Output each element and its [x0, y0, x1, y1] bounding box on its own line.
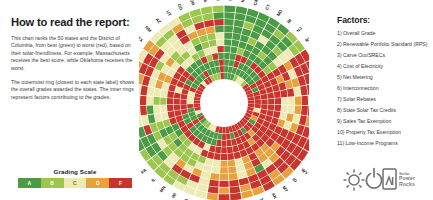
heatmap-cell	[234, 152, 241, 159]
heatmap-cell	[229, 60, 235, 67]
heatmap-cell	[214, 60, 220, 67]
heatmap-cell	[234, 20, 244, 28]
heatmap-cell	[147, 106, 154, 115]
heatmap-cell	[220, 174, 229, 180]
heatmap-cell	[230, 193, 241, 200]
heatmap-cell	[224, 39, 231, 46]
heatmap-cell	[216, 39, 223, 46]
heatmap-cell	[212, 6, 223, 13]
state-label-sd: SD	[308, 157, 309, 164]
heatmap-cell	[180, 99, 186, 104]
heatmap-cell	[222, 140, 227, 146]
factor-item-8: 8) State Solar Tax Credits	[337, 107, 431, 114]
heatmap-cell	[221, 154, 227, 160]
heatmap-cell	[274, 91, 281, 98]
heatmap-cell	[215, 26, 224, 33]
heatmap-cell	[160, 90, 167, 98]
state-label-co: CO	[177, 3, 185, 12]
state-label-nm: NM	[144, 25, 153, 34]
state-label-az: AZ	[154, 17, 162, 25]
heatmap-cell	[147, 96, 153, 105]
heatmap-cell	[308, 95, 309, 105]
heatmap-cell	[281, 97, 287, 104]
heatmap-cell	[209, 40, 217, 47]
heatmap-cell	[201, 41, 209, 49]
heatmap-cell	[231, 40, 239, 47]
heatmap-cell	[214, 19, 224, 26]
heatmap-cell	[281, 105, 288, 112]
heatmap-cell	[210, 46, 217, 53]
heatmap-cell	[207, 152, 214, 159]
heatmap-cell	[160, 105, 167, 112]
heatmap-cells	[139, 6, 309, 200]
grading-scale-legend: Grading Scale ABCDF	[18, 168, 132, 188]
heatmap-cell	[204, 20, 214, 28]
heatmap-cell	[141, 115, 149, 125]
state-label-de: DE	[139, 157, 140, 165]
heatmap-cell	[235, 13, 246, 21]
heatmap-cell	[219, 59, 224, 65]
heatmap-cell	[294, 87, 301, 96]
factor-item-4: 4) Cost of Electricity	[337, 63, 431, 70]
power-icon	[366, 169, 381, 188]
heatmap-cell	[229, 180, 239, 187]
heatmap-cell	[230, 186, 241, 193]
heatmap-cell	[237, 171, 247, 179]
state-label-wa: WA	[202, 0, 208, 3]
heatmap-cell	[216, 32, 224, 39]
heatmap-cell	[167, 98, 173, 104]
heatmap-cell	[208, 186, 219, 193]
heatmap-cell	[254, 104, 260, 108]
heatmap-cell	[162, 82, 170, 90]
howto-paragraph-1: This chart ranks the 50 states and the D…	[11, 35, 137, 72]
state-label-mt: MT	[281, 185, 289, 193]
heatmap-cell	[255, 100, 261, 104]
heatmap-cell	[154, 88, 161, 97]
heatmap-cell	[220, 66, 224, 72]
factor-item-2: 2) Renewable Portfolio Standard (RPS)	[337, 41, 431, 48]
heatmap-cell	[268, 99, 274, 105]
heatmap-cell	[280, 112, 287, 120]
heatmap-cell	[160, 97, 166, 104]
heatmap-cell	[207, 193, 218, 200]
logo-word-rocks: Rocks	[399, 182, 415, 187]
heatmap-cell	[268, 105, 275, 111]
heatmap-cell	[261, 104, 268, 109]
heatmap-cell	[248, 100, 254, 103]
state-label-ne: NE	[259, 198, 266, 200]
heatmap-cell	[248, 104, 254, 108]
state-label-ri: RI	[286, 18, 293, 24]
heatmap-cell	[147, 87, 154, 96]
heatmap-cell	[280, 90, 287, 98]
heatmap-cell	[301, 106, 308, 116]
heatmap-cell	[227, 153, 234, 160]
heatmap-cell	[187, 104, 193, 108]
heatmap-cell	[300, 85, 308, 95]
heatmap-cell	[238, 41, 246, 49]
heatmap-cell	[148, 114, 156, 124]
heatmap-cell	[210, 173, 219, 180]
heatmap-cell	[226, 140, 231, 147]
heatmap-cell	[155, 80, 163, 89]
state-label-md: MD	[276, 9, 284, 17]
heatmap-cell	[224, 46, 230, 53]
heatmap-cell	[168, 111, 175, 118]
heatmap-cell	[224, 59, 229, 65]
state-label-nv: NV	[304, 35, 309, 43]
factors-list: 1) Overall Grade2) Renewable Portfolio S…	[337, 30, 431, 146]
heatmap-cell	[180, 104, 187, 109]
heatmap-cell	[154, 113, 162, 122]
grade-swatch-c: C	[64, 178, 87, 188]
heatmap-cell	[261, 99, 267, 104]
heatmap-cell	[201, 6, 213, 14]
state-label-nj: NJ	[296, 25, 304, 33]
sun-icon	[344, 170, 365, 191]
factor-item-1: 1) Overall Grade	[337, 30, 431, 37]
heatmap-cell	[153, 97, 159, 105]
heatmap-cell	[161, 112, 168, 120]
heatmap-cell	[187, 100, 193, 104]
heatmap-cell	[228, 160, 236, 167]
heatmap-cell	[227, 146, 233, 153]
heatmap-cell	[232, 33, 241, 40]
grading-scale-title: Grading Scale	[18, 168, 132, 175]
